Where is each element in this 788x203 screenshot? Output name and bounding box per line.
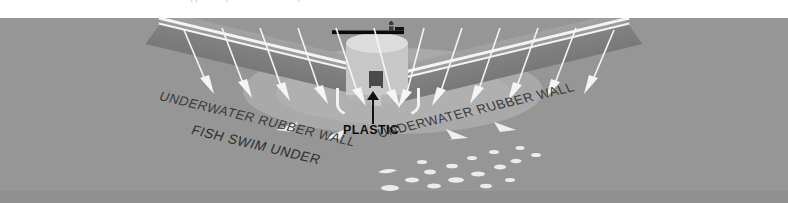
plastic-callout-line bbox=[372, 96, 374, 124]
caption-text: supported by the Ocean Cleanup foundatio… bbox=[182, 0, 612, 2]
plastic-callout-arrowhead bbox=[367, 91, 379, 100]
ocean-background: UNDERWATER RUBBER WALL FISH SWIM UNDER U… bbox=[0, 18, 788, 203]
ocean-floor-band bbox=[0, 191, 788, 203]
label-plastic: PLASTIC bbox=[343, 123, 399, 137]
barrier-system: UNDERWATER RUBBER WALL FISH SWIM UNDER U… bbox=[0, 18, 788, 203]
diagram-canvas: supported by the Ocean Cleanup foundatio… bbox=[0, 0, 788, 203]
caption-strip: supported by the Ocean Cleanup foundatio… bbox=[0, 0, 788, 18]
